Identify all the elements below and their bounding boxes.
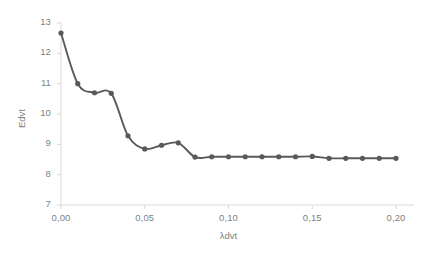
y-tick-label: 11 <box>29 77 51 88</box>
data-point <box>310 154 315 159</box>
y-tick-marks <box>57 23 61 205</box>
data-point <box>109 91 114 96</box>
x-tick-label: 0,00 <box>41 212 81 223</box>
y-tick-label: 8 <box>29 168 51 179</box>
data-point <box>58 30 63 35</box>
y-tick-label: 7 <box>29 198 51 209</box>
data-point <box>92 90 97 95</box>
data-point <box>243 154 248 159</box>
data-point <box>192 154 197 159</box>
x-axis-title: λdvt <box>169 230 289 241</box>
data-point <box>209 154 214 159</box>
y-tick-label: 12 <box>29 46 51 57</box>
x-tick-label: 0,15 <box>292 212 332 223</box>
data-point <box>75 81 80 86</box>
data-point <box>142 146 147 151</box>
data-point <box>360 156 365 161</box>
y-tick-label: 10 <box>29 107 51 118</box>
data-point <box>226 154 231 159</box>
data-point <box>125 133 130 138</box>
data-point <box>159 143 164 148</box>
data-point <box>343 156 348 161</box>
data-point <box>176 140 181 145</box>
x-tick-label: 0,10 <box>209 212 249 223</box>
x-tick-label: 0,20 <box>376 212 416 223</box>
data-point-markers <box>58 30 398 160</box>
data-point <box>276 154 281 159</box>
data-point <box>326 156 331 161</box>
y-tick-label: 9 <box>29 137 51 148</box>
data-point <box>393 156 398 161</box>
x-tick-label: 0,05 <box>125 212 165 223</box>
data-point <box>259 154 264 159</box>
y-tick-label: 13 <box>29 16 51 27</box>
data-point <box>293 154 298 159</box>
x-tick-marks <box>61 205 396 209</box>
y-axis-title: Edvt <box>16 109 27 128</box>
data-point <box>377 156 382 161</box>
chart-container: 78910111213 0,000,050,100,150,20 Edvt λd… <box>0 0 426 258</box>
